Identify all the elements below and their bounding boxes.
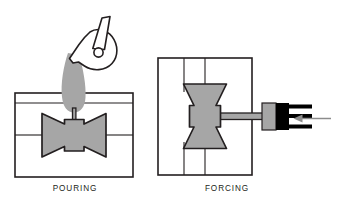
ram-prong-top [289,105,312,109]
ram-prong-bottom [289,125,312,129]
ladle-pivot-icon [94,48,103,57]
forcing-casting [184,84,227,149]
forcing-runner [215,113,263,120]
pouring-panel [15,17,133,178]
ram-body [276,103,289,130]
plunger-block [262,103,276,130]
casting-process-figure [0,0,337,212]
panel-label-forcing: FORCING [152,184,302,193]
forcing-panel [158,58,331,175]
pouring-casting [42,114,106,158]
panel-label-pouring: POURING [0,184,150,193]
